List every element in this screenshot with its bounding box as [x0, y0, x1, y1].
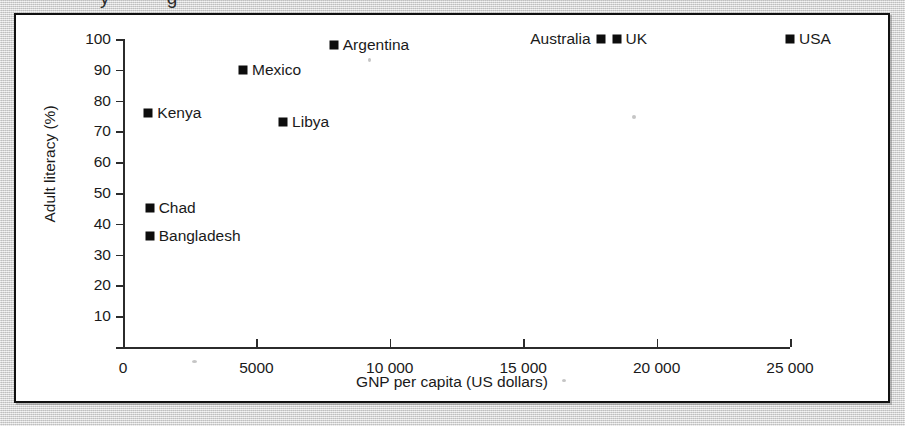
x-axis-tick [790, 339, 792, 347]
data-point-label: Australia [530, 30, 590, 48]
y-axis-tick [116, 255, 123, 257]
cropped-text-above-figure: y g [100, 0, 203, 9]
scanned-page: y g 102030405060708090100 0500010 00015 … [0, 0, 905, 426]
y-axis-title: Adult literacy (%) [41, 84, 59, 244]
x-axis-tick [390, 339, 392, 347]
data-point-marker [239, 65, 248, 74]
data-point-marker [145, 232, 154, 241]
data-point-label: USA [799, 30, 831, 48]
figure-panel: 102030405060708090100 0500010 00015 0002… [14, 13, 890, 403]
data-point-marker [786, 35, 795, 44]
y-tick-label: 100 [85, 30, 111, 48]
data-point-marker [145, 204, 154, 213]
y-axis-tick [116, 193, 123, 195]
y-tick-label: 80 [94, 92, 111, 110]
y-tick-label: 20 [94, 276, 111, 294]
y-tick-label: 90 [94, 61, 111, 79]
y-tick-label: 40 [94, 215, 111, 233]
y-axis-tick [116, 224, 123, 226]
data-point-label: Kenya [157, 104, 201, 122]
y-axis-tick [116, 162, 123, 164]
y-axis-tick [116, 39, 123, 41]
data-point-label: UK [626, 30, 648, 48]
data-point-label: Argentina [343, 36, 409, 54]
data-point-marker [144, 108, 153, 117]
y-axis-tick [116, 316, 123, 318]
y-axis-tick [116, 131, 123, 133]
data-point-marker [279, 118, 288, 127]
scan-speck [632, 115, 636, 119]
x-axis-tick [256, 339, 258, 347]
scan-speck [192, 360, 197, 363]
y-tick-label: 30 [94, 246, 111, 264]
data-point-label: Bangladesh [159, 227, 241, 245]
data-point-label: Chad [159, 199, 196, 217]
y-tick-label: 10 [94, 307, 111, 325]
y-tick-label: 70 [94, 122, 111, 140]
y-axis-tick [116, 101, 123, 103]
x-axis-tick [657, 339, 659, 347]
x-axis-line [123, 347, 790, 349]
y-tick-label: 60 [94, 153, 111, 171]
y-axis-line [123, 39, 125, 347]
y-axis-tick [116, 285, 123, 287]
data-point-marker [329, 41, 338, 50]
x-axis-title: GNP per capita (US dollars) [16, 373, 888, 391]
y-axis-tick [116, 70, 123, 72]
x-axis-origin-tick [116, 347, 123, 349]
scan-speck [562, 379, 566, 382]
x-axis-tick [523, 339, 525, 347]
data-point-marker [596, 35, 605, 44]
data-point-label: Mexico [252, 61, 301, 79]
scatter-plot: 102030405060708090100 0500010 00015 0002… [16, 15, 888, 401]
data-point-label: Libya [292, 113, 329, 131]
data-point-marker [612, 35, 621, 44]
y-tick-label: 50 [94, 184, 111, 202]
scan-speck [368, 58, 371, 62]
